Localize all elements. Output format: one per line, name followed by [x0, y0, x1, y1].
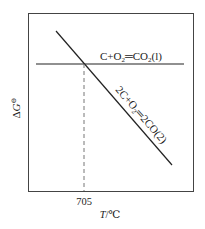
gibbs-energy-diagram: C+O2═CO2(l) 2C+O2═2CO(2) ΔG⊖ 705 T/℃: [0, 0, 205, 229]
x-tick-705: 705: [76, 196, 92, 207]
x-axis-label: T/℃: [100, 209, 121, 220]
series-co-label: 2C+O2═2CO(2): [112, 83, 170, 147]
plot-frame: [29, 14, 194, 192]
series-co2-label: C+O2═CO2(l): [100, 50, 162, 64]
y-axis-label: ΔG⊖: [10, 97, 22, 118]
